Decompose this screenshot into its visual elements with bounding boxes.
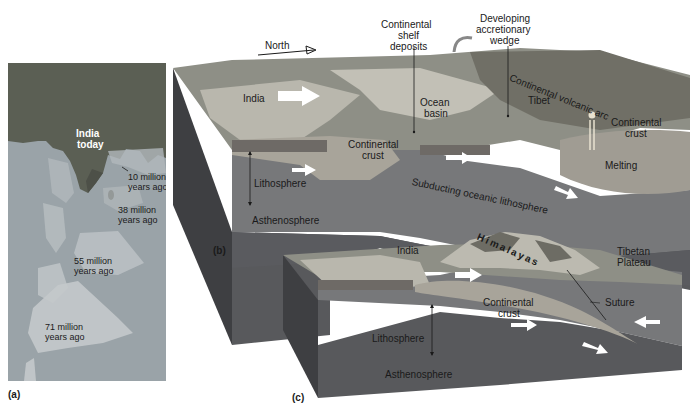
panel-c-block-diagram bbox=[0, 0, 691, 409]
suture-label: Suture bbox=[605, 297, 634, 308]
tibetan-plateau-line1: Tibetan bbox=[617, 246, 650, 257]
asthenosphere-c-label: Asthenosphere bbox=[385, 369, 452, 380]
panel-c-tag: (c) bbox=[292, 392, 304, 403]
india-label-c: India bbox=[397, 245, 419, 256]
lithosphere-c-label: Lithosphere bbox=[372, 333, 424, 344]
continental-crust-c-line1: Continental bbox=[483, 297, 534, 308]
continental-crust-c-line2: crust bbox=[498, 308, 520, 319]
tibetan-plateau-line2: Plateau bbox=[617, 257, 651, 268]
